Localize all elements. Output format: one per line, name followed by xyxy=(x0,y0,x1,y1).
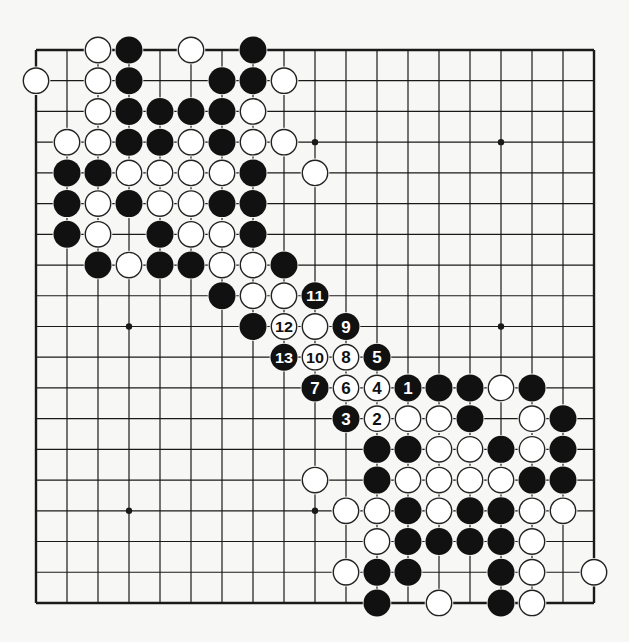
move-number-label: 7 xyxy=(310,379,319,398)
white-stone xyxy=(425,589,454,618)
black-stone xyxy=(84,251,113,280)
white-stone-icon xyxy=(240,252,265,277)
white-stone xyxy=(332,497,361,526)
white-stone xyxy=(425,497,454,526)
black-stone xyxy=(394,527,423,556)
black-stone xyxy=(394,497,423,526)
white-stone-icon xyxy=(395,467,420,492)
white-stone xyxy=(177,220,206,249)
white-stone xyxy=(239,128,268,157)
white-stone-icon xyxy=(85,99,110,124)
white-stone xyxy=(84,97,113,126)
star-point xyxy=(126,323,132,329)
white-stone xyxy=(363,497,392,526)
white-stone xyxy=(518,589,547,618)
white-stone-icon xyxy=(85,191,110,216)
white-stone-icon xyxy=(240,283,265,308)
black-stone xyxy=(146,251,175,280)
white-stone-icon xyxy=(364,498,389,523)
white-stone-icon xyxy=(333,498,358,523)
black-stone xyxy=(487,435,516,464)
white-stone xyxy=(425,435,454,464)
black-stone-icon xyxy=(488,528,515,555)
black-stone xyxy=(487,589,516,618)
black-stone-icon xyxy=(364,559,391,586)
white-stone-icon xyxy=(85,37,110,62)
black-stone-icon xyxy=(116,98,143,125)
black-stone-icon xyxy=(457,405,484,432)
white-stone xyxy=(301,312,330,341)
black-stone-icon xyxy=(147,129,174,156)
move-number-label: 10 xyxy=(306,349,324,366)
white-stone-icon xyxy=(116,160,141,185)
black-stone-icon xyxy=(209,98,236,125)
black-stone-icon xyxy=(209,190,236,217)
white-stone-icon xyxy=(333,560,358,585)
numbered-white-stone: 10 xyxy=(301,343,330,372)
white-stone xyxy=(301,159,330,188)
go-board-diagram: 11129131085764132 xyxy=(0,0,629,642)
black-stone xyxy=(146,97,175,126)
white-stone-icon xyxy=(178,160,203,185)
move-number-label: 11 xyxy=(306,287,324,304)
black-stone xyxy=(456,497,485,526)
black-stone xyxy=(518,374,547,403)
star-point xyxy=(498,139,504,145)
black-stone xyxy=(115,128,144,157)
black-stone xyxy=(208,189,237,218)
black-stone-icon xyxy=(54,221,81,248)
white-stone-icon xyxy=(54,129,79,154)
white-stone-icon xyxy=(85,129,110,154)
white-stone xyxy=(518,527,547,556)
black-stone-icon xyxy=(364,467,391,494)
black-stone xyxy=(146,128,175,157)
white-stone-icon xyxy=(116,252,141,277)
move-number-label: 8 xyxy=(341,348,350,367)
white-stone-icon xyxy=(488,375,513,400)
white-stone-icon xyxy=(364,529,389,554)
white-stone-icon xyxy=(209,252,234,277)
white-stone xyxy=(177,159,206,188)
black-stone-icon xyxy=(209,282,236,309)
black-stone-icon xyxy=(240,159,267,186)
black-stone-icon xyxy=(54,159,81,186)
white-stone-icon xyxy=(426,498,451,523)
black-stone-icon xyxy=(240,313,267,340)
black-stone xyxy=(208,128,237,157)
black-stone xyxy=(456,374,485,403)
black-stone xyxy=(363,435,392,464)
white-stone-icon xyxy=(395,406,420,431)
black-stone-icon xyxy=(395,559,422,586)
black-stone xyxy=(177,97,206,126)
white-stone xyxy=(518,435,547,464)
numbered-black-stone: 5 xyxy=(363,343,392,372)
move-number-label: 3 xyxy=(341,410,350,429)
white-stone-icon xyxy=(519,437,544,462)
black-stone-icon xyxy=(85,159,112,186)
black-stone-icon xyxy=(519,467,546,494)
white-stone-icon xyxy=(271,68,296,93)
white-stone-icon xyxy=(85,68,110,93)
white-stone xyxy=(270,281,299,310)
white-stone xyxy=(177,128,206,157)
black-stone-icon xyxy=(240,190,267,217)
white-stone-icon xyxy=(23,68,48,93)
white-stone xyxy=(115,159,144,188)
white-stone-icon xyxy=(209,160,234,185)
black-stone-icon xyxy=(550,467,577,494)
black-stone xyxy=(239,220,268,249)
white-stone-icon xyxy=(457,467,482,492)
white-stone-icon xyxy=(302,314,327,339)
white-stone xyxy=(208,159,237,188)
black-stone xyxy=(239,189,268,218)
white-stone xyxy=(84,128,113,157)
white-stone xyxy=(425,466,454,495)
white-stone-icon xyxy=(426,467,451,492)
white-stone xyxy=(394,466,423,495)
black-stone xyxy=(363,589,392,618)
black-stone-icon xyxy=(395,436,422,463)
black-stone xyxy=(53,220,82,249)
black-stone-icon xyxy=(54,190,81,217)
black-stone-icon xyxy=(147,98,174,125)
white-stone xyxy=(301,466,330,495)
